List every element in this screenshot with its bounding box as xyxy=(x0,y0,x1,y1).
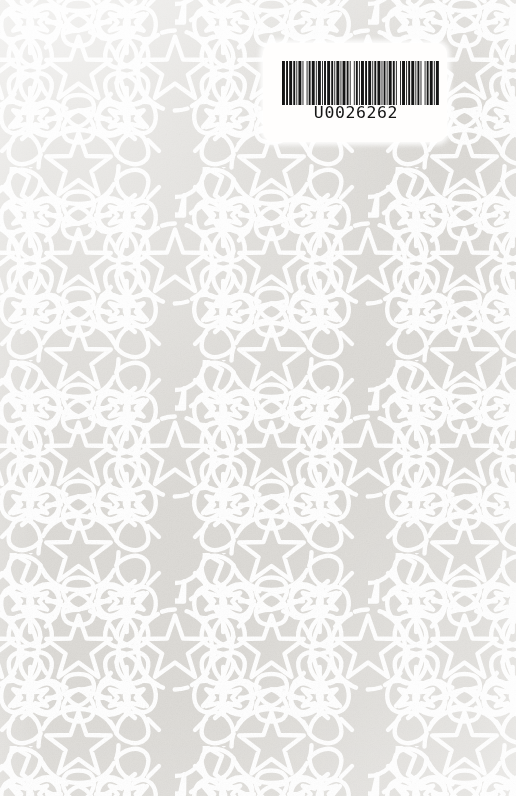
book-cover-page: U0026262 xyxy=(0,0,516,796)
library-barcode-label[interactable]: U0026262 xyxy=(263,43,447,142)
barcode-bars-icon xyxy=(282,61,439,105)
barcode-number-text: U0026262 xyxy=(263,105,447,122)
